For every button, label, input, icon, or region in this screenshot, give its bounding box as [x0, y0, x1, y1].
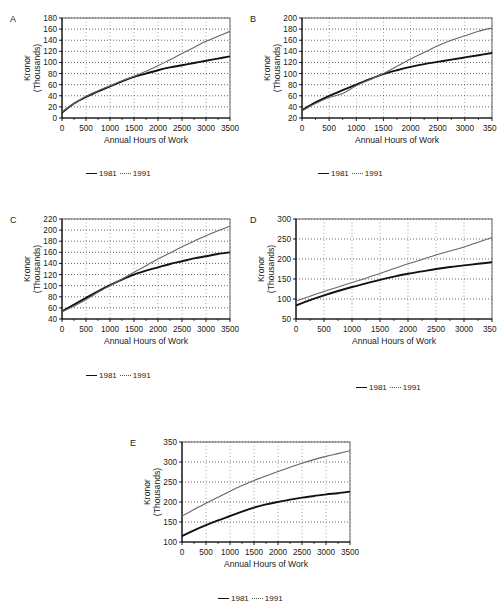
- legend-label-1991: 1991: [133, 169, 151, 178]
- x-tick-label: 2000: [149, 124, 168, 133]
- y-tick-label: 160: [43, 248, 57, 257]
- legend-item-1981: 1981: [86, 169, 117, 178]
- chart-panel-d: D501001502002503000500100015002000250030…: [248, 205, 497, 355]
- legend-label-1991: 1991: [403, 383, 421, 392]
- legend-dotted-line-icon: [120, 173, 131, 174]
- y-tick-label: 120: [43, 271, 57, 280]
- legend-label-1991: 1991: [365, 169, 383, 178]
- legend-label-1991: 1991: [265, 594, 283, 603]
- y-tick-label: 40: [48, 315, 58, 324]
- y-tick-label: 80: [48, 293, 58, 302]
- y-tick-label: 60: [288, 92, 298, 101]
- x-tick-label: 3500: [221, 124, 240, 133]
- y-tick-label: 180: [43, 14, 57, 23]
- chart-plot-a: 0204060801001201401601800500100015002000…: [8, 4, 240, 154]
- y-tick-label: 100: [43, 58, 57, 67]
- x-tick-label: 2500: [173, 124, 192, 133]
- x-tick-label: 3000: [197, 325, 216, 334]
- x-tick-label: 0: [60, 124, 65, 133]
- chart-panel-e: E100150200250300350050010001500200025003…: [128, 428, 360, 578]
- figure-panel-grid: A020406080100120140160180050010001500200…: [0, 0, 497, 604]
- x-tick-label: 350: [483, 325, 497, 334]
- y-tick-label: 180: [43, 237, 57, 246]
- x-tick-label: 2000: [149, 325, 168, 334]
- x-tick-label: 1000: [101, 124, 120, 133]
- y-tick-label: 60: [48, 81, 58, 90]
- legend-solid-line-icon: [318, 173, 329, 174]
- y-tick-label: 250: [163, 478, 177, 487]
- chart-panel-b: B204060801001201401601802000500100015002…: [248, 4, 497, 154]
- plot-background: [302, 18, 492, 118]
- legend-solid-line-icon: [86, 173, 97, 174]
- y-tick-label: 40: [288, 103, 298, 112]
- x-tick-label: 1000: [221, 548, 240, 557]
- x-tick-label: 1500: [245, 548, 264, 557]
- legend-solid-line-icon: [218, 598, 229, 599]
- legend-item-1981: 1981: [318, 169, 349, 178]
- legend-solid-line-icon: [86, 375, 97, 376]
- y-tick-label: 200: [43, 226, 57, 235]
- legend-dotted-line-icon: [390, 387, 401, 388]
- legend-item-1991: 1991: [390, 383, 421, 392]
- y-tick-label: 160: [283, 36, 297, 45]
- y-tick-label: 20: [48, 103, 58, 112]
- x-tick-label: 2500: [173, 325, 192, 334]
- panel-letter-c: C: [10, 215, 17, 225]
- x-tick-label: 2000: [399, 325, 418, 334]
- x-axis-title: Annual Hours of Work: [104, 135, 189, 145]
- x-tick-label: 1500: [125, 124, 144, 133]
- y-axis-title-line2: (Thousands): [152, 468, 162, 516]
- y-axis-title-line2: (Thousands): [32, 44, 42, 92]
- legend-dotted-line-icon: [252, 598, 263, 599]
- legend-label-1981: 1981: [369, 383, 387, 392]
- legend-label-1981: 1981: [331, 169, 349, 178]
- x-tick-label: 1000: [347, 124, 366, 133]
- chart-plot-b: 2040608010012014016018020005001000150020…: [248, 4, 497, 154]
- x-tick-label: 3500: [341, 548, 360, 557]
- y-tick-label: 220: [43, 215, 57, 224]
- y-axis-title-line2: (Thousands): [272, 44, 282, 92]
- y-axis-title-line2: (Thousands): [32, 245, 42, 293]
- plot-background: [62, 18, 230, 118]
- x-tick-label: 1500: [374, 124, 393, 133]
- y-tick-label: 140: [43, 259, 57, 268]
- x-tick-label: 1000: [343, 325, 362, 334]
- y-tick-label: 20: [288, 114, 298, 123]
- y-tick-label: 350: [163, 438, 177, 447]
- x-tick-label: 500: [79, 124, 93, 133]
- chart-plot-d: 5010015020025030005001000150020002500300…: [248, 205, 497, 355]
- plot-background: [62, 219, 230, 319]
- chart-panel-c: C406080100120140160180200220050010001500…: [8, 205, 240, 355]
- x-tick-label: 3000: [456, 124, 475, 133]
- legend-dotted-line-icon: [120, 375, 131, 376]
- y-axis-title-line1: Kronor: [142, 479, 152, 505]
- y-axis-title-line2: (Thousands): [266, 245, 276, 293]
- chart-panel-a: A020406080100120140160180050010001500200…: [8, 4, 240, 154]
- y-tick-label: 140: [43, 36, 57, 45]
- y-tick-label: 200: [277, 255, 291, 264]
- y-tick-label: 100: [43, 282, 57, 291]
- y-tick-label: 100: [277, 295, 291, 304]
- x-tick-label: 2500: [293, 548, 312, 557]
- x-tick-label: 350: [483, 124, 497, 133]
- y-tick-label: 160: [43, 25, 57, 34]
- x-tick-label: 1000: [101, 325, 120, 334]
- y-tick-label: 150: [277, 275, 291, 284]
- legend-item-1991: 1991: [352, 169, 383, 178]
- legend-label-1981: 1981: [231, 594, 249, 603]
- x-tick-label: 2000: [401, 124, 420, 133]
- y-tick-label: 300: [163, 458, 177, 467]
- y-tick-label: 200: [163, 498, 177, 507]
- y-tick-label: 120: [283, 58, 297, 67]
- y-tick-label: 140: [283, 47, 297, 56]
- legend-item-1991: 1991: [120, 169, 151, 178]
- chart-legend-e: 19811991: [218, 594, 283, 603]
- x-tick-label: 3500: [221, 325, 240, 334]
- legend-label-1991: 1991: [133, 371, 151, 380]
- x-axis-title: Annual Hours of Work: [352, 336, 437, 346]
- x-tick-label: 2500: [427, 325, 446, 334]
- y-tick-label: 100: [163, 538, 177, 547]
- chart-legend-a: 19811991: [86, 169, 151, 178]
- legend-solid-line-icon: [356, 387, 367, 388]
- x-tick-label: 0: [300, 124, 305, 133]
